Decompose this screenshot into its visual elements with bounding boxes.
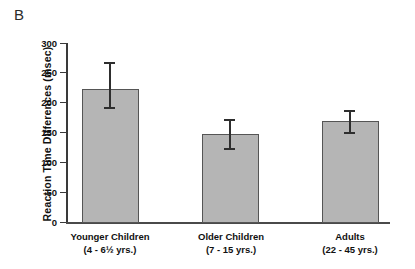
y-tick-label-0: 0 bbox=[17, 217, 57, 228]
y-tick-100 bbox=[60, 162, 66, 163]
x-axis-label-adults: Adults (22 - 45 yrs.) bbox=[282, 230, 415, 256]
error-bar-cap-lower-adults bbox=[344, 132, 355, 134]
bar-younger-children bbox=[82, 89, 139, 223]
x-axis-label-younger-children-range: (4 - 6½ yrs.) bbox=[40, 243, 180, 256]
y-tick-label-150: 150 bbox=[17, 127, 57, 138]
x-axis-label-younger-children-name: Younger Children bbox=[71, 231, 150, 242]
panel-label: B bbox=[14, 6, 25, 23]
x-axis-label-adults-range: (22 - 45 yrs.) bbox=[282, 243, 415, 256]
y-tick-label-250: 250 bbox=[17, 67, 57, 78]
error-bar-cap-upper-adults bbox=[344, 110, 355, 112]
y-tick-label-100: 100 bbox=[17, 157, 57, 168]
error-bar-line-older-children bbox=[229, 119, 231, 149]
y-tick-label-50: 50 bbox=[17, 187, 57, 198]
error-bar-cap-upper-older-children bbox=[224, 119, 235, 121]
y-tick-300 bbox=[60, 43, 66, 44]
x-axis-label-adults-name: Adults bbox=[335, 231, 365, 242]
y-tick-label-200: 200 bbox=[17, 97, 57, 108]
x-axis-label-younger-children: Younger Children (4 - 6½ yrs.) bbox=[40, 230, 180, 256]
x-axis-label-older-children-name: Older Children bbox=[198, 231, 264, 242]
error-bar-cap-lower-younger-children bbox=[104, 107, 115, 109]
bar-chart-figure: B Reaction Time Differences (msec) 0 50 … bbox=[0, 0, 415, 269]
error-bar-line-younger-children bbox=[109, 62, 111, 108]
x-axis-label-older-children-range: (7 - 15 yrs.) bbox=[162, 243, 300, 256]
error-bar-line-adults bbox=[349, 110, 351, 133]
y-tick-0 bbox=[60, 222, 66, 223]
x-axis-label-older-children: Older Children (7 - 15 yrs.) bbox=[162, 230, 300, 256]
y-axis-line bbox=[66, 43, 68, 224]
y-tick-150 bbox=[60, 132, 66, 133]
y-tick-200 bbox=[60, 102, 66, 103]
error-bar-cap-upper-younger-children bbox=[104, 62, 115, 64]
error-bar-cap-lower-older-children bbox=[224, 148, 235, 150]
bar-adults bbox=[322, 121, 379, 223]
y-tick-50 bbox=[60, 192, 66, 193]
y-tick-label-300: 300 bbox=[17, 38, 57, 49]
y-tick-250 bbox=[60, 72, 66, 73]
